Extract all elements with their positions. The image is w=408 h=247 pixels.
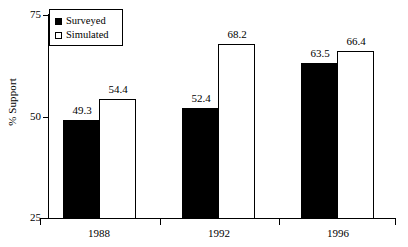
- legend-label-simulated: Simulated: [66, 30, 109, 41]
- bar-surveyed-1996: [301, 63, 338, 219]
- x-category-label-1996: 1996: [308, 228, 368, 239]
- y-tick-label-50: 50: [15, 111, 41, 122]
- bar-value-surveyed-1996: 63.5: [298, 48, 342, 59]
- y-tick-labels: 75 50 25: [11, 0, 41, 247]
- x-tick-separator-1: [160, 219, 161, 225]
- x-category-label-1992: 1992: [189, 228, 249, 239]
- bar-surveyed-1992: [182, 108, 219, 219]
- x-tick-start: [40, 219, 41, 225]
- legend-swatch-filled-square-icon: [55, 18, 62, 25]
- legend-item-surveyed: Surveyed: [55, 14, 122, 28]
- bar-simulated-1992: [218, 44, 255, 219]
- legend-label-surveyed: Surveyed: [66, 16, 106, 27]
- x-tick-separator-2: [279, 219, 280, 225]
- bar-value-surveyed-1992: 52.4: [179, 93, 223, 104]
- legend-item-simulated: Simulated: [55, 28, 122, 42]
- x-category-label-1988: 1988: [69, 228, 129, 239]
- bar-chart-figure: % Support 75 50 25 49.3 54.4 1988 52.4 6…: [0, 0, 408, 247]
- y-tick-50: [43, 117, 49, 118]
- y-tick-label-25: 25: [15, 212, 41, 223]
- bar-value-simulated-1996: 66.4: [334, 36, 378, 47]
- bar-value-surveyed-1988: 49.3: [60, 105, 104, 116]
- y-tick-label-75: 75: [15, 9, 41, 20]
- bar-simulated-1988: [99, 99, 136, 219]
- bar-value-simulated-1988: 54.4: [96, 84, 140, 95]
- legend-swatch-hollow-square-icon: [55, 32, 62, 39]
- bar-surveyed-1988: [63, 120, 100, 219]
- bar-value-simulated-1992: 68.2: [215, 29, 259, 40]
- x-tick-end: [395, 219, 396, 225]
- bar-simulated-1996: [337, 51, 374, 219]
- chart-legend: Surveyed Simulated: [49, 9, 123, 46]
